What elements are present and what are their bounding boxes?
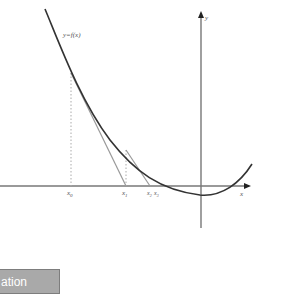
point-label-x2: x2 <box>146 190 152 198</box>
point-label-x0: x0 <box>66 189 73 198</box>
y-axis-label: y <box>204 14 209 22</box>
svg-text:x0: x0 <box>66 189 73 198</box>
newton-method-diagram: y=f(x) y x x0 x1 x2 x3 <box>0 0 291 250</box>
y-axis-arrow-icon <box>198 11 204 18</box>
point-label-x1: x1 <box>121 189 128 198</box>
curve-label: y=f(x) <box>62 31 81 39</box>
x-axis-label: x <box>239 190 244 198</box>
svg-text:x1: x1 <box>121 189 128 198</box>
caption-button-label: ation <box>1 275 27 289</box>
point-label-x3: x3 <box>153 190 159 198</box>
svg-text:x3: x3 <box>153 190 159 198</box>
tangent-line-2 <box>126 150 150 186</box>
svg-text:x2: x2 <box>146 190 152 198</box>
x-axis-arrow-icon <box>244 183 251 189</box>
caption-button[interactable]: ation <box>0 269 60 294</box>
